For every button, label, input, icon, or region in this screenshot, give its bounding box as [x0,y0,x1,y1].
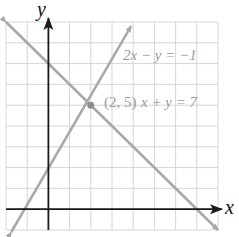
intersection-point [87,102,94,109]
graph-canvas [0,0,239,237]
point-label: (2, 5) [104,94,137,111]
equation-label-1: 2x − y = −1 [123,47,197,64]
equation-label-2: x + y = 7 [141,94,197,111]
line-2x-minus-y [11,26,131,232]
x-axis-label: x [225,196,234,219]
y-axis-label: y [37,0,46,21]
